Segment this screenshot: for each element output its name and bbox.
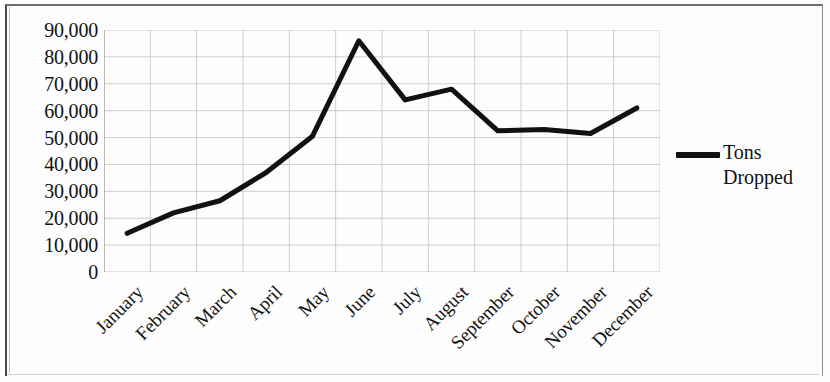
legend-line-marker-icon [676,152,720,158]
y-axis: 90,00080,00070,00060,00050,00040,00030,0… [18,30,98,272]
chart-figure: 90,00080,00070,00060,00050,00040,00030,0… [0,0,830,382]
y-axis-tick-label: 70,000 [18,74,98,94]
y-axis-tick-label: 50,000 [18,128,98,148]
legend-label-line-1: Tons [723,140,818,165]
line-chart-plot [104,30,660,272]
y-axis-tick-label: 90,000 [18,20,98,40]
y-axis-tick-label: 20,000 [18,208,98,228]
plot-area [104,30,660,272]
y-axis-tick-label: 80,000 [18,47,98,67]
x-axis-tick-label-text: May [294,282,332,320]
x-axis-tick-label-text: June [340,282,378,320]
x-axis-tick-label-text: April [244,282,285,323]
y-axis-tick-label: 60,000 [18,101,98,121]
page-bottom-rule [7,374,819,375]
x-axis-tick-label-text: July [389,282,425,318]
legend-label-line-2: Dropped [723,165,818,190]
x-axis: JanuaryFebruaryMarchAprilMayJuneJulyAugu… [0,272,700,372]
legend-label-tons-dropped: Tons Dropped [723,140,818,190]
y-axis-tick-label: 10,000 [18,235,98,255]
chart-legend: Tons Dropped [676,140,826,190]
y-axis-tick-label: 30,000 [18,181,98,201]
y-axis-tick-label: 40,000 [18,154,98,174]
